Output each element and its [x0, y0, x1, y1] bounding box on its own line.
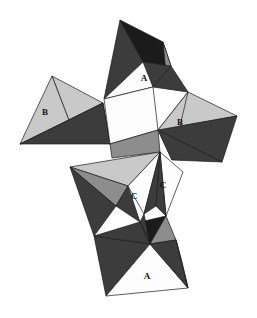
face-label-c-left: C: [131, 191, 138, 201]
polyhedron-diagram: ABBCCA: [0, 0, 257, 318]
face-label-b-left: B: [42, 107, 48, 117]
face-label-a-top: A: [141, 73, 148, 83]
figure-canvas: ABBCCA: [0, 0, 257, 318]
face-label-c-right: C: [160, 180, 167, 190]
face-label-a-bottom: A: [144, 271, 151, 281]
face-label-b-right: B: [177, 117, 183, 127]
